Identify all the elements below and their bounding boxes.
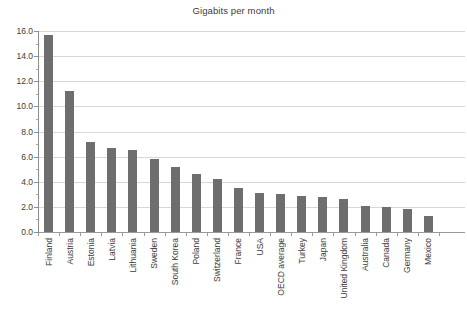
y-axis-tick-label: 14.0 [1,51,33,61]
x-axis-tick-label-text: Latvia [107,238,117,261]
gridline [38,157,465,158]
y-tick-major [34,132,39,133]
bar [276,194,285,232]
gridline [38,106,465,107]
x-axis-tick-label: Latvia [106,238,118,324]
x-axis-tick-label-text: Australia [360,238,370,271]
bar [213,179,222,232]
x-tick [376,233,377,236]
x-tick [101,233,102,236]
y-axis-tick-label: 12.0 [1,76,33,86]
x-axis-tick-label: Germany [401,238,413,324]
y-tick-minor [36,144,39,145]
x-axis-tick-label: Austria [64,238,76,324]
x-tick [122,233,123,236]
x-tick [59,233,60,236]
y-tick-major [34,182,39,183]
x-axis-tick-label: Mexico [422,238,434,324]
x-axis-tick-label: Poland [190,238,202,324]
x-axis-tick-label-text: France [233,238,243,264]
x-tick [333,233,334,236]
x-tick [312,233,313,236]
bar [424,216,433,232]
x-tick [144,233,145,236]
x-axis-tick-label-text: Germany [402,238,412,273]
y-axis-tick-label: 2.0 [1,202,33,212]
bar [171,167,180,232]
y-axis-tick-label: 0.0 [1,227,33,237]
x-axis-tick-label: Estonia [85,238,97,324]
x-tick [270,233,271,236]
y-axis-tick-label: 6.0 [1,152,33,162]
bar [44,35,53,232]
bar [128,150,137,232]
x-axis-tick-label: Australia [359,238,371,324]
y-tick-major [34,81,39,82]
bar [318,197,327,232]
y-tick-major [34,31,39,32]
bar [234,188,243,232]
y-tick-minor [36,194,39,195]
gridline [38,31,465,32]
x-tick [38,233,39,236]
x-axis-tick-label: USA [254,238,266,324]
bar [403,209,412,232]
x-axis-tick-label: Lithuania [127,238,139,324]
x-axis-tick-label-text: Estonia [86,238,96,266]
x-axis-tick-label-text: Switzerland [212,238,222,282]
x-tick [80,233,81,236]
bar [297,196,306,232]
bar [86,142,95,232]
bar [382,207,391,232]
bar [339,199,348,232]
x-axis-tick-label-text: United Kingdom [339,238,349,298]
bar [107,148,116,232]
y-axis-tick-label: 10.0 [1,101,33,111]
gridline [38,182,465,183]
x-tick [186,233,187,236]
x-axis-tick-label: Canada [380,238,392,324]
x-axis-tick-label-text: Canada [381,238,391,268]
y-axis-tick-label: 16.0 [1,26,33,36]
x-axis-tick-label: South Korea [169,238,181,324]
y-tick-major [34,207,39,208]
x-tick [165,233,166,236]
x-axis-tick-label-text: Mexico [423,238,433,265]
x-axis-tick-label-text: Poland [191,238,201,264]
gridline [38,207,465,208]
x-tick [418,233,419,236]
gridline [38,81,465,82]
y-tick-minor [36,219,39,220]
bar [255,193,264,232]
plot-area [38,31,465,232]
x-axis-tick-label-text: Finland [44,238,54,266]
y-axis-tick-label: 8.0 [1,127,33,137]
y-tick-minor [36,69,39,70]
x-tick [439,233,440,236]
x-tick [355,233,356,236]
x-tick [397,233,398,236]
x-tick [228,233,229,236]
bar [361,206,370,232]
x-axis-tick-label: Sweden [148,238,160,324]
y-tick-minor [36,119,39,120]
y-tick-major [34,157,39,158]
gridline [38,56,465,57]
x-axis-tick-label-text: OECD average [276,238,286,296]
x-axis-tick-label: Switzerland [211,238,223,324]
x-axis-tick-label: Turkey [296,238,308,324]
y-tick-minor [36,94,39,95]
bar [192,174,201,232]
x-axis-tick-label-text: Japan [318,238,328,261]
x-axis-tick-label: France [232,238,244,324]
x-axis-tick-label-text: South Korea [170,238,180,285]
bar [150,159,159,232]
y-axis-tick-label: 4.0 [1,177,33,187]
x-axis-tick-label-text: Lithuania [128,238,138,273]
y-axis-labels: 16.014.012.010.08.06.04.02.00.0 [0,0,33,328]
x-axis-tick-label-text: Sweden [149,238,159,269]
y-tick-major [34,56,39,57]
x-tick [249,233,250,236]
x-axis-tick-label-text: USA [255,238,265,255]
x-axis-tick-label: United Kingdom [338,238,350,324]
